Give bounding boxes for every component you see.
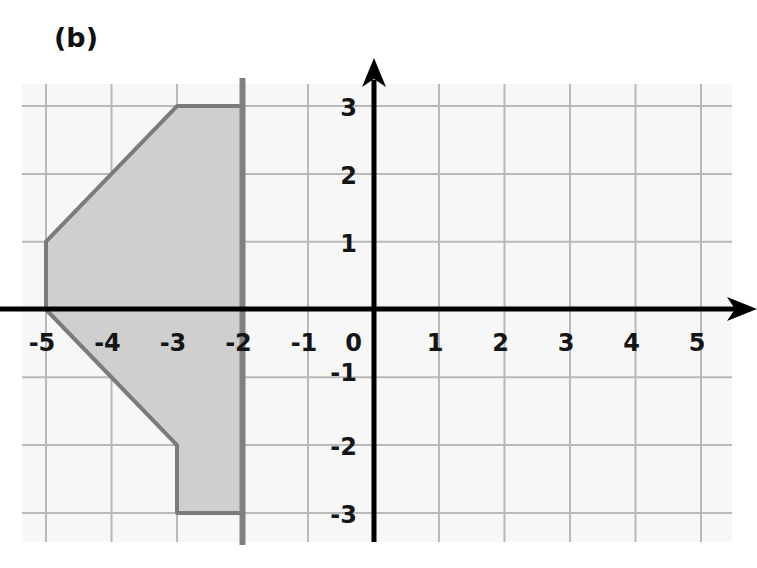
coordinate-plane: -5-4-3-2-1012345 321-1-2-3: [0, 0, 757, 568]
x-tick-label: -5: [29, 329, 56, 357]
x-tick-label: -4: [94, 329, 121, 357]
x-tick-label: 5: [689, 329, 706, 357]
x-tick-label: -3: [160, 329, 187, 357]
y-tick-label: 1: [340, 230, 357, 258]
x-tick-label: -1: [291, 329, 318, 357]
y-tick-label: -2: [330, 433, 357, 461]
x-tick-label: 2: [492, 329, 509, 357]
x-tick-label: 4: [623, 329, 640, 357]
y-tick-label: 2: [340, 162, 357, 190]
y-tick-label: -3: [330, 501, 357, 529]
x-tick-label: 3: [558, 329, 575, 357]
y-tick-label: -1: [330, 359, 357, 387]
x-tick-label: 1: [427, 329, 444, 357]
y-tick-label: 3: [340, 94, 357, 122]
x-tick-label: -2: [225, 329, 252, 357]
x-tick-label: 0: [345, 329, 362, 357]
